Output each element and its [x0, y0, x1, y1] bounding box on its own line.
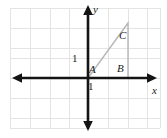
vertex-label-a: A — [89, 64, 96, 75]
y-axis-down-arrow — [83, 121, 93, 131]
vertex-label-b: B — [117, 63, 124, 74]
coordinate-plane-svg — [0, 0, 167, 138]
grid-lines — [10, 8, 160, 128]
x-axis-label: x — [152, 85, 157, 96]
axis-lines — [18, 12, 150, 124]
y-axis-up-arrow — [83, 5, 93, 15]
y-axis-label: y — [93, 4, 98, 15]
x-axis-left-arrow — [12, 73, 22, 83]
y-axis-unit-tick-label: 1 — [72, 53, 78, 64]
vertex-label-c: C — [119, 30, 126, 41]
axis-arrowheads — [12, 5, 157, 131]
graph-figure: A B C x y 1 1 — [0, 0, 167, 138]
x-axis-unit-tick-label: 1 — [88, 81, 94, 92]
x-axis-right-arrow — [147, 73, 157, 83]
